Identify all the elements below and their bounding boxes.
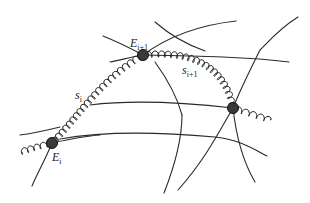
node-e-i: [47, 138, 58, 149]
spring-s-i1: [145, 51, 236, 109]
label-s-i1: si+1: [182, 64, 197, 79]
node-e-i2: [228, 103, 239, 114]
label-sub: i: [59, 157, 61, 166]
label-e-i1: Ei+1: [130, 37, 148, 52]
label-sub: i+1: [187, 70, 198, 79]
label-s-i: si: [75, 89, 82, 104]
contour-curves: [20, 17, 298, 193]
label-e-i: Ei: [52, 151, 62, 166]
label-sub: i: [80, 95, 82, 104]
spring-network-diagram: [0, 0, 310, 203]
label-sub: i+1: [137, 43, 148, 52]
spring-s-i: [52, 53, 144, 145]
spring-tail-right: [234, 107, 272, 121]
